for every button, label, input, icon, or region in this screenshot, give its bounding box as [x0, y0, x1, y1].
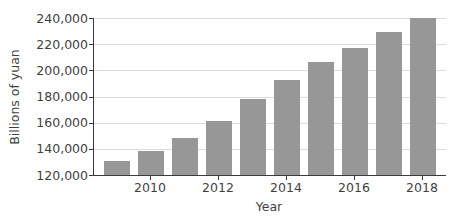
bar-2018	[410, 18, 436, 175]
y-tick-label: 240,000	[18, 12, 88, 25]
bar-2016	[342, 48, 368, 175]
bar-2015	[308, 62, 334, 175]
y-tick-label: 120,000	[18, 169, 88, 182]
bar-2009	[104, 161, 130, 175]
plot-area	[93, 18, 446, 176]
y-tick-mark	[89, 70, 93, 71]
x-tick-label: 2018	[400, 181, 444, 194]
y-tick-mark	[89, 18, 93, 19]
y-tick-mark	[89, 149, 93, 150]
x-tick-label: 2014	[264, 181, 308, 194]
y-tick-mark	[89, 97, 93, 98]
y-tick-label: 200,000	[18, 64, 88, 77]
x-tick-label: 2010	[128, 181, 172, 194]
gridline	[94, 18, 446, 19]
y-tick-label: 140,000	[18, 142, 88, 155]
x-axis-title: Year	[256, 199, 282, 214]
x-tick-label: 2012	[196, 181, 240, 194]
bar-2011	[172, 138, 198, 175]
bar-2013	[240, 99, 266, 175]
y-tick-mark	[89, 44, 93, 45]
y-tick-mark	[89, 175, 93, 176]
bar-2012	[206, 121, 232, 175]
y-tick-label: 180,000	[18, 90, 88, 103]
bar-2014	[274, 80, 300, 176]
y-tick-label: 220,000	[18, 38, 88, 51]
y-tick-mark	[89, 123, 93, 124]
x-tick-label: 2016	[332, 181, 376, 194]
bar-2010	[138, 151, 164, 175]
y-tick-label: 160,000	[18, 116, 88, 129]
bar-2017	[376, 32, 402, 175]
bar-chart-figure: Billions of yuan 240,000220,000200,00018…	[0, 0, 456, 218]
